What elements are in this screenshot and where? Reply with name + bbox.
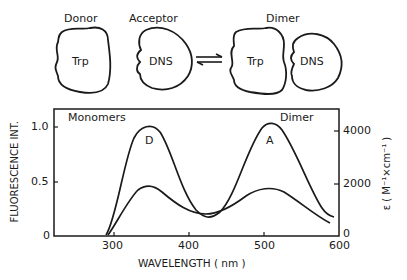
- peak-label-a: A: [266, 135, 274, 146]
- y-tick-1: 1.0: [31, 121, 49, 132]
- x-tick-300: 300: [102, 240, 123, 251]
- lower-curve: [108, 186, 330, 235]
- peak-label-d: D: [145, 135, 153, 146]
- y-tick-05: 0.5: [31, 176, 49, 187]
- yr-tick-4000: 4000: [343, 125, 371, 136]
- x-tick-500: 500: [254, 240, 275, 251]
- plot-frame: [54, 109, 339, 236]
- yr-tick-0: 0: [343, 228, 350, 239]
- upper-curve: [106, 123, 334, 235]
- donor-label: Trp: [72, 56, 89, 67]
- equilibrium-arrows: [196, 54, 222, 65]
- x-tick-400: 400: [178, 240, 199, 251]
- y-axis-title: FLUORESCENCE INT.: [9, 123, 20, 223]
- x-axis-title: WAVELENGTH ( nm ): [138, 258, 246, 269]
- yr-tick-2000: 2000: [343, 178, 371, 189]
- y-axis-right-title: ε ( M⁻¹×cm⁻¹ ): [381, 119, 392, 229]
- y-tick-0: 0: [43, 230, 50, 241]
- dimer-trp-label: Trp: [247, 56, 264, 67]
- acceptor-label: DNS: [149, 56, 173, 67]
- monomers-annotation: Monomers: [68, 112, 126, 123]
- dimer-annotation: Dimer: [280, 112, 314, 123]
- x-tick-600: 600: [329, 240, 350, 251]
- dimer-dns-label: DNS: [300, 56, 324, 67]
